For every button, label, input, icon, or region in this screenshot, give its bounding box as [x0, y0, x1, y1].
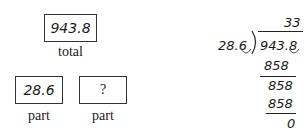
- part-box-1: 28.6: [15, 76, 63, 104]
- step-1: 858: [264, 58, 289, 73]
- step-2: 858: [268, 78, 293, 93]
- part-2-value: ?: [100, 82, 106, 98]
- decimal-shift-arrow-icon: [240, 47, 252, 57]
- quotient: 33: [284, 15, 301, 30]
- part-2-label: part: [79, 108, 127, 124]
- remainder: 0: [287, 116, 295, 131]
- total-box: 943.8: [44, 14, 97, 42]
- total-value: 943.8: [50, 20, 90, 36]
- total-label: total: [44, 44, 97, 60]
- step-3: 858: [268, 96, 293, 111]
- division-bar: [258, 31, 303, 32]
- part-box-2: ?: [79, 76, 127, 104]
- dividend: 943.8: [260, 38, 297, 53]
- part-1-value: 28.6: [23, 82, 54, 98]
- step-1-line: [260, 76, 296, 77]
- part-1-label: part: [15, 108, 63, 124]
- step-3-line: [266, 113, 296, 114]
